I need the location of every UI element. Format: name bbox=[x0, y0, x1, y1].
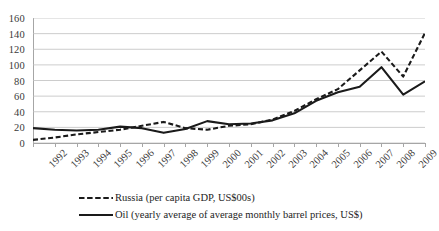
solid-line-icon bbox=[78, 210, 114, 220]
x-axis-tick-labels: 1992199319941995199619971998199920002001… bbox=[0, 147, 439, 181]
legend-item-russia: Russia (per capita GDP, US$00s) bbox=[78, 189, 438, 206]
legend-label-oil: Oil (yearly average of average monthly b… bbox=[115, 209, 363, 220]
series-lines bbox=[33, 18, 425, 143]
legend-label-russia: Russia (per capita GDP, US$00s) bbox=[115, 192, 255, 203]
dashed-line-icon bbox=[78, 193, 114, 203]
legend-item-oil: Oil (yearly average of average monthly b… bbox=[78, 206, 438, 223]
y-axis-tick-labels: 020406080100120140160 bbox=[0, 18, 29, 143]
plot-area bbox=[33, 18, 425, 143]
chart-legend: Russia (per capita GDP, US$00s) Oil (yea… bbox=[78, 189, 438, 223]
chart-container: 020406080100120140160 199219931994199519… bbox=[0, 0, 439, 231]
